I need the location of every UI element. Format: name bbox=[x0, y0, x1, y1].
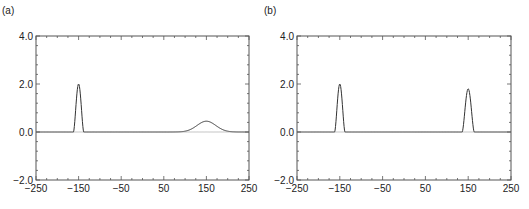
x-tick-label: −50 bbox=[374, 183, 391, 194]
y-tick-label: 4.0 bbox=[280, 31, 294, 42]
panel-label: (b) bbox=[264, 5, 276, 16]
solution-line bbox=[36, 84, 249, 132]
x-tick-label: 150 bbox=[198, 183, 215, 194]
figure: (a)−250−150−5050150250−2.00.02.04.0 (b)−… bbox=[0, 0, 529, 209]
panel-label: (a) bbox=[2, 5, 14, 16]
y-tick-label: 0.0 bbox=[19, 127, 33, 138]
x-tick-label: 250 bbox=[503, 183, 520, 194]
x-tick-label: 50 bbox=[158, 183, 170, 194]
y-tick-label: −2.0 bbox=[13, 175, 33, 186]
y-tick-label: 4.0 bbox=[19, 31, 33, 42]
y-tick-label: −2.0 bbox=[274, 175, 294, 186]
plot-frame bbox=[36, 36, 249, 180]
tick-marks bbox=[36, 36, 249, 180]
y-tick-label: 0.0 bbox=[280, 127, 294, 138]
x-tick-label: −50 bbox=[113, 183, 130, 194]
x-tick-label: −150 bbox=[329, 183, 352, 194]
x-tick-label: 250 bbox=[241, 183, 258, 194]
plot-frame bbox=[297, 36, 511, 180]
x-tick-label: 150 bbox=[460, 183, 477, 194]
solution-line bbox=[297, 84, 511, 132]
y-tick-label: 2.0 bbox=[280, 79, 294, 90]
x-tick-label: 50 bbox=[420, 183, 432, 194]
tick-marks bbox=[297, 36, 511, 180]
panel-b: (b)−250−150−5050150250−2.00.02.04.0 bbox=[264, 5, 520, 194]
x-tick-label: −150 bbox=[67, 183, 90, 194]
panel-a: (a)−250−150−5050150250−2.00.02.04.0 bbox=[2, 5, 258, 194]
y-tick-label: 2.0 bbox=[19, 79, 33, 90]
